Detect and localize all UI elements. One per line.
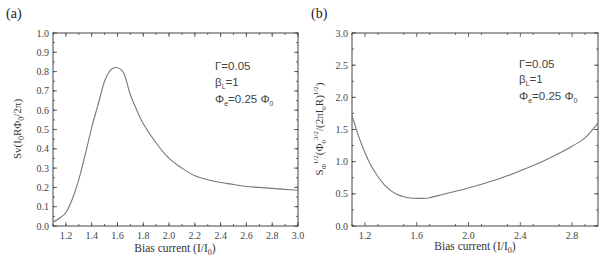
x-tick-label: 1.6 — [410, 230, 423, 241]
x-tick-label: 2.4 — [214, 230, 227, 241]
x-tick-label: 2.0 — [163, 230, 176, 241]
chart-a-plot-frame — [53, 33, 298, 226]
panel-label-a: (a) — [6, 6, 22, 22]
chart-b-plot-frame — [352, 33, 598, 226]
y-tick-label: 0.5 — [336, 188, 349, 199]
x-tick-label: 1.6 — [111, 230, 124, 241]
y-tick-label: 3.0 — [336, 28, 349, 39]
panel-label-b: (b) — [311, 6, 328, 22]
annotation-gamma: Γ=0.05 — [215, 60, 250, 72]
annotation-phi: Φe=0.25 Φ0 — [519, 90, 578, 104]
chart-b-annotation: Γ=0.05 βL=1 Φe=0.25 Φ0 — [519, 58, 578, 104]
chart-b-ticks: 1.21.62.02.42.80.00.51.01.52.02.53.0 — [336, 28, 599, 242]
chart-panel-a: (a) 1.21.41.61.82.02.22.42.62.83.00.00.1… — [0, 0, 305, 275]
y-tick-label: 0.2 — [37, 182, 50, 193]
chart-a-ticks: 1.21.41.61.82.02.22.42.62.83.00.00.10.20… — [37, 28, 305, 242]
chart-b-svg: (b) 1.21.62.02.42.80.00.51.01.52.02.53.0… — [305, 0, 610, 275]
y-tick-label: 1.0 — [336, 156, 349, 167]
x-tick-label: 3.0 — [292, 230, 305, 241]
y-tick-label: 0.4 — [37, 143, 50, 154]
annotation-beta: βL=1 — [519, 73, 543, 87]
chart-panel-b: (b) 1.21.62.02.42.80.00.51.01.52.02.53.0… — [305, 0, 610, 275]
y-tick-label: 0.6 — [37, 105, 50, 116]
y-tick-label: 1.0 — [37, 28, 50, 39]
y-tick-label: 0.7 — [37, 85, 50, 96]
chart-b-y-axis-label: SΦ1/2(Φ03/2/(2πI0R)1/2) — [312, 82, 328, 175]
x-tick-label: 2.8 — [566, 230, 579, 241]
x-tick-label: 2.8 — [266, 230, 279, 241]
x-tick-label: 1.8 — [137, 230, 150, 241]
chart-a-y-axis-label: Sv(I0RΦ0/2π) — [11, 99, 26, 159]
chart-a-x-axis-label: Bias current (I/I0) — [134, 242, 215, 257]
x-tick-label: 2.2 — [189, 230, 202, 241]
y-tick-label: 0.0 — [336, 221, 349, 232]
x-tick-label: 2.4 — [514, 230, 527, 241]
y-tick-label: 2.5 — [336, 60, 349, 71]
y-tick-label: 1.5 — [336, 124, 349, 135]
x-tick-label: 1.4 — [85, 230, 98, 241]
annotation-phi: Φe=0.25 Φ0 — [215, 93, 274, 107]
annotation-beta: βL=1 — [215, 76, 239, 90]
annotation-gamma: Γ=0.05 — [519, 58, 554, 70]
y-tick-label: 0.5 — [37, 124, 50, 135]
x-tick-label: 1.2 — [359, 230, 372, 241]
y-tick-label: 0.8 — [37, 66, 50, 77]
chart-a-svg: (a) 1.21.41.61.82.02.22.42.62.83.00.00.1… — [0, 0, 305, 275]
x-tick-label: 2.6 — [240, 230, 253, 241]
chart-a-annotation: Γ=0.05 βL=1 Φe=0.25 Φ0 — [215, 60, 274, 107]
y-tick-label: 0.1 — [37, 201, 50, 212]
chart-b-x-axis-label: Bias current (I/I0) — [434, 240, 515, 255]
chart-b-series-line — [352, 115, 598, 198]
x-tick-label: 1.2 — [60, 230, 73, 241]
y-tick-label: 0.3 — [37, 163, 50, 174]
y-tick-label: 2.0 — [336, 92, 349, 103]
y-tick-label: 0.0 — [37, 221, 50, 232]
chart-a-series-line — [53, 67, 298, 222]
y-tick-label: 0.9 — [37, 47, 50, 58]
